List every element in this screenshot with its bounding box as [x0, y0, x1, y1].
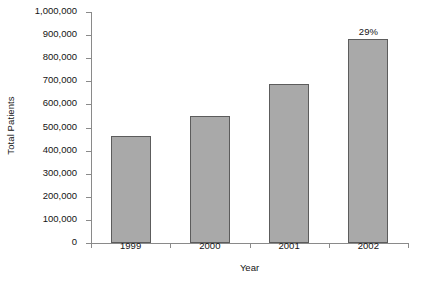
y-axis-line — [91, 12, 92, 243]
x-axis-label-2002: 2002 — [338, 240, 398, 251]
y-axis-tick-label: 400,000 — [43, 144, 77, 155]
x-axis-tick — [329, 243, 330, 248]
y-axis-tick: 700,000 — [86, 81, 91, 82]
x-axis-label-2000: 2000 — [180, 240, 240, 251]
y-axis-tick-label: 600,000 — [43, 97, 77, 108]
y-axis-tick-label: 500,000 — [43, 121, 77, 132]
y-axis-tick-label: 300,000 — [43, 167, 77, 178]
bar-2000[interactable] — [190, 116, 230, 243]
y-axis-tick: 500,000 — [86, 128, 91, 129]
y-axis-tick-label: 900,000 — [43, 28, 77, 39]
bar-2001[interactable] — [269, 84, 309, 243]
y-axis-tick-label: 200,000 — [43, 190, 77, 201]
x-axis-tick — [91, 243, 92, 248]
y-axis-tick: 100,000 — [86, 220, 91, 221]
y-axis-tick: 200,000 — [86, 197, 91, 198]
y-axis-tick: 400,000 — [86, 151, 91, 152]
bar-chart-figure: Total Patients 0100,000200,000300,000400… — [0, 0, 427, 285]
x-axis-title: Year — [91, 262, 408, 273]
x-axis-label-2001: 2001 — [259, 240, 319, 251]
y-axis-tick: 600,000 — [86, 104, 91, 105]
y-axis-tick: 800,000 — [86, 58, 91, 59]
bar-2002[interactable]: 29% — [348, 39, 388, 243]
y-axis-title: Total Patients — [0, 0, 20, 250]
y-axis-title-text: Total Patients — [5, 96, 16, 154]
plot-area: 0100,000200,000300,000400,000500,000600,… — [91, 12, 408, 243]
y-axis-tick-label: 800,000 — [43, 51, 77, 62]
y-axis-tick-label: 700,000 — [43, 74, 77, 85]
bar-1999[interactable] — [111, 136, 151, 243]
x-axis-tick — [170, 243, 171, 248]
y-axis-tick: 300,000 — [86, 174, 91, 175]
y-axis-tick: 1,000,000 — [86, 12, 91, 13]
y-axis-tick-label: 0 — [72, 236, 77, 247]
y-axis-tick-label: 100,000 — [43, 213, 77, 224]
x-axis-tick — [408, 243, 409, 248]
y-axis-tick-label: 1,000,000 — [35, 5, 77, 16]
x-axis-tick — [250, 243, 251, 248]
bar-annotation-2002: 29% — [359, 26, 378, 37]
x-axis-label-1999: 1999 — [101, 240, 161, 251]
y-axis-tick: 900,000 — [86, 35, 91, 36]
